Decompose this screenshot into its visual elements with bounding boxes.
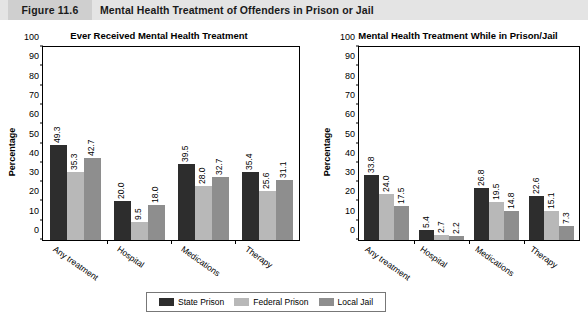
bar-value-label: 39.5 xyxy=(181,132,191,162)
y-axis-tick-mark xyxy=(356,219,359,220)
bar-value-label: 20.0 xyxy=(117,169,127,199)
bar: 32.7 xyxy=(212,177,229,240)
y-axis-tick-label: 60 xyxy=(345,109,355,119)
bar-group: 49.335.342.7 xyxy=(43,47,107,240)
x-axis-labels-right: Any treatmentHospitalMedicationsTherapy xyxy=(359,240,579,285)
bar-value-label: 35.4 xyxy=(245,140,255,170)
bar: 7.3 xyxy=(559,226,574,240)
bar-value-label: 18.0 xyxy=(151,173,161,203)
bar: 26.8 xyxy=(474,188,489,240)
bar-group: 39.528.032.7 xyxy=(171,47,235,240)
bar: 18.0 xyxy=(148,205,165,240)
bar-value-label: 7.3 xyxy=(562,194,572,224)
bar-group: 35.425.631.1 xyxy=(235,47,299,240)
legend-swatch xyxy=(234,298,249,306)
y-axis-tick-mark xyxy=(356,142,359,143)
bar: 19.5 xyxy=(489,202,504,240)
bar-group: 22.615.17.3 xyxy=(524,47,579,240)
bar-group: 33.824.017.5 xyxy=(359,47,414,240)
bar-value-label: 26.8 xyxy=(477,156,487,186)
bar-value-label: 19.5 xyxy=(492,170,502,200)
y-axis-tick-label: 70 xyxy=(29,90,39,100)
x-axis-tick-label: Any treatment xyxy=(51,244,100,283)
y-axis-tick-mark xyxy=(40,200,43,201)
y-axis-tick-label: 0 xyxy=(350,225,355,235)
bar: 28.0 xyxy=(195,186,212,240)
x-axis-tick-label: Hospital xyxy=(115,244,146,270)
x-axis-tick-label: Therapy xyxy=(528,244,559,270)
bar-value-label: 2.2 xyxy=(452,204,462,234)
x-axis-tick-label: Medications xyxy=(473,244,516,278)
y-axis-tick-mark xyxy=(356,84,359,85)
y-axis-tick-label: 10 xyxy=(345,206,355,216)
y-axis-tick-label: 40 xyxy=(29,148,39,158)
y-axis-tick-label: 50 xyxy=(29,129,39,139)
y-axis-tick-mark xyxy=(356,65,359,66)
y-axis-tick-mark xyxy=(40,123,43,124)
bar-group: 26.819.514.8 xyxy=(469,47,524,240)
y-axis-tick-label: 30 xyxy=(29,167,39,177)
chart-panel-right: Mental Health Treatment While in Prison/… xyxy=(310,24,588,284)
bar: 35.3 xyxy=(67,172,84,240)
y-axis-tick-mark xyxy=(40,84,43,85)
bar: 5.4 xyxy=(419,230,434,240)
chart-legend: State PrisonFederal PrisonLocal Jail xyxy=(146,292,386,312)
bar: 25.6 xyxy=(259,191,276,240)
bar-group: 20.09.518.0 xyxy=(107,47,171,240)
bar-value-label: 49.3 xyxy=(53,113,63,143)
plot-area-left: 49.335.342.720.09.518.039.528.032.735.42… xyxy=(42,46,300,241)
chart-panel-left: Ever Received Mental Health Treatment Pe… xyxy=(0,24,310,284)
y-axis-tick-mark xyxy=(356,46,359,47)
figure-title: Mental Health Treatment of Offenders in … xyxy=(100,0,374,20)
y-axis-tick-label: 90 xyxy=(29,51,39,61)
bar-group: 5.42.72.2 xyxy=(414,47,469,240)
y-axis-tick-mark xyxy=(356,200,359,201)
bar-value-label: 17.5 xyxy=(397,174,407,204)
bar-value-label: 35.3 xyxy=(70,140,80,170)
x-axis-tick-label: Medications xyxy=(179,244,222,278)
y-axis-tick-label: 0 xyxy=(34,225,39,235)
y-axis-tick-label: 10 xyxy=(29,206,39,216)
legend-item: Federal Prison xyxy=(234,297,308,307)
y-axis-tick-label: 30 xyxy=(345,167,355,177)
bar-value-label: 2.7 xyxy=(437,203,447,233)
y-axis-tick-mark xyxy=(356,123,359,124)
y-axis-tick-label: 90 xyxy=(345,51,355,61)
bar: 20.0 xyxy=(114,201,131,240)
figure-header-bar: Figure 11.6 Mental Health Treatment of O… xyxy=(0,0,588,20)
x-axis-tick-label: Therapy xyxy=(243,244,274,270)
y-axis-tick-label: 40 xyxy=(345,148,355,158)
bar: 15.1 xyxy=(544,211,559,240)
bar: 31.1 xyxy=(276,180,293,240)
y-axis-label-left: Percentage xyxy=(7,102,17,202)
y-axis-tick-mark xyxy=(40,103,43,104)
y-axis-tick-mark xyxy=(356,181,359,182)
y-axis-tick-label: 80 xyxy=(345,71,355,81)
bar-value-label: 28.0 xyxy=(198,154,208,184)
legend-item: State Prison xyxy=(159,297,224,307)
x-axis-tick-label: Hospital xyxy=(418,244,449,270)
bar-value-label: 9.5 xyxy=(134,190,144,220)
bar: 35.4 xyxy=(242,172,259,240)
chart-title-left: Ever Received Mental Health Treatment xyxy=(0,30,300,41)
bar-groups-right: 33.824.017.55.42.72.226.819.514.822.615.… xyxy=(359,47,579,240)
y-axis-tick-mark xyxy=(40,239,43,240)
y-axis-tick-label: 50 xyxy=(345,129,355,139)
legend-label: State Prison xyxy=(178,297,224,307)
y-axis-tick-label: 20 xyxy=(345,186,355,196)
bar: 42.7 xyxy=(84,158,101,240)
bar-value-label: 5.4 xyxy=(422,198,432,228)
y-axis-tick-mark xyxy=(356,103,359,104)
y-axis-tick-label: 80 xyxy=(29,71,39,81)
bar-value-label: 25.6 xyxy=(262,159,272,189)
bar: 39.5 xyxy=(178,164,195,240)
legend-item: Local Jail xyxy=(319,297,373,307)
y-axis-tick-label: 60 xyxy=(29,109,39,119)
bar: 22.6 xyxy=(529,196,544,240)
y-axis-tick-mark xyxy=(40,65,43,66)
plot-area-right: 33.824.017.55.42.72.226.819.514.822.615.… xyxy=(358,46,580,241)
x-axis-tick-label: Any treatment xyxy=(363,244,412,283)
bar-value-label: 15.1 xyxy=(547,179,557,209)
y-axis-label-right: Percentage xyxy=(322,102,332,202)
legend-label: Federal Prison xyxy=(253,297,308,307)
